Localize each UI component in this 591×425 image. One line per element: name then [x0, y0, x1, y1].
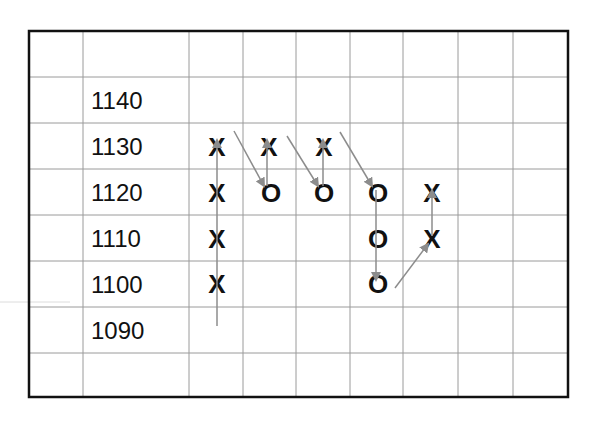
o-mark: O	[368, 269, 388, 299]
arrow-down-right-icon	[287, 136, 318, 186]
arrow-up-right-icon	[395, 244, 428, 288]
arrow-down-right-icon	[340, 132, 372, 186]
o-mark: O	[314, 178, 334, 208]
o-mark: O	[261, 178, 281, 208]
price-label-1120: 1120	[91, 179, 143, 206]
o-mark: O	[368, 224, 388, 254]
x-mark: X	[260, 132, 278, 162]
price-label-1110: 1110	[91, 225, 141, 252]
price-label-1140: 1140	[91, 87, 143, 114]
o-mark: O	[368, 178, 388, 208]
point-and-figure-chart: 1140 1130 1120 1110 1100 1090 X X X X X …	[0, 0, 591, 425]
price-label-1130: 1130	[91, 133, 143, 160]
x-mark: X	[315, 132, 333, 162]
price-label-1090: 1090	[91, 317, 144, 344]
price-label-1100: 1100	[91, 271, 143, 298]
